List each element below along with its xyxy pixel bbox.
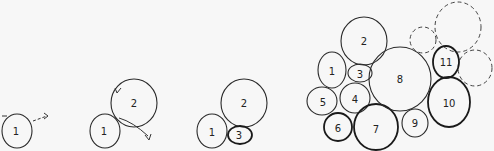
label-11: 11 [440, 57, 453, 68]
arrow-head-icon [44, 113, 48, 119]
dashed-circle [458, 50, 492, 86]
label-8: 8 [397, 74, 403, 85]
label-1: 1 [101, 126, 107, 137]
label-1: 1 [209, 127, 215, 138]
label-3: 3 [236, 130, 242, 141]
label-6: 6 [335, 123, 341, 134]
panel-step-3: 1 2 3 [197, 79, 267, 148]
label-5: 5 [320, 97, 326, 108]
label-10: 10 [443, 98, 456, 109]
label-9: 9 [412, 118, 418, 129]
panel-step-final: 1 2 3 4 5 6 7 8 9 10 11 [307, 2, 492, 150]
arrow-head-icon [145, 134, 151, 140]
dashed-circle [435, 2, 481, 52]
panel-step-1: 1 [2, 113, 48, 148]
label-4: 4 [352, 94, 358, 105]
panel-step-2: 1 2 [90, 79, 157, 148]
label-3: 3 [357, 69, 363, 80]
label-2: 2 [131, 98, 137, 109]
circle-packing-diagram: 1 1 2 1 2 3 1 2 3 4 5 [0, 0, 494, 151]
label-2: 2 [241, 98, 247, 109]
label-1: 1 [329, 66, 335, 77]
label-2: 2 [361, 36, 367, 47]
dashed-circle [410, 27, 436, 53]
label-1: 1 [13, 126, 19, 137]
label-7: 7 [373, 124, 379, 135]
